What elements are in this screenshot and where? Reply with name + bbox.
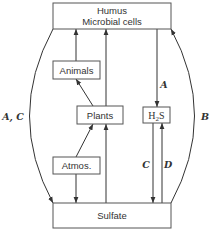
plants-to-animals-arrow	[76, 79, 93, 106]
left-arc-label: A, C	[1, 111, 24, 123]
humus-node: Humus Microbial cells	[53, 3, 171, 29]
h2s-node: H2S	[143, 107, 170, 123]
sulfate-to-h2s-label: D	[163, 159, 173, 170]
humus-to-h2s-label: A	[159, 79, 167, 90]
h2s-to-sulfate-label: C	[142, 159, 150, 170]
animals-label: Animals	[60, 65, 94, 76]
right-arc-label: B	[200, 111, 209, 122]
sulfur-cycle-diagram: Humus Microbial cells Animals Plants Atm…	[0, 0, 213, 239]
left-arc-arrow	[30, 29, 54, 203]
atmos-node: Atmos.	[53, 157, 100, 174]
microbial-cells-label: Microbial cells	[82, 16, 142, 27]
animals-node: Animals	[53, 61, 100, 79]
humus-label: Humus	[97, 5, 127, 16]
plants-node: Plants	[77, 106, 123, 124]
plants-label: Plants	[87, 110, 114, 121]
sulfate-label: Sulfate	[97, 210, 127, 221]
sulfate-node: Sulfate	[53, 203, 171, 228]
right-arc-arrow	[171, 29, 195, 203]
atmos-to-plants-arrow	[76, 124, 93, 157]
atmos-label: Atmos.	[62, 160, 92, 171]
